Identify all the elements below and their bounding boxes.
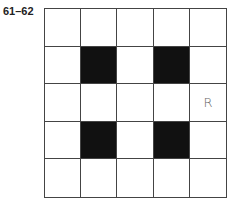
grid-cell-marked: R	[190, 84, 226, 122]
grid-cell	[117, 47, 153, 85]
grid-cell	[81, 9, 117, 47]
grid-cell	[45, 159, 81, 197]
grid-cell	[117, 159, 153, 197]
grid-cell	[117, 84, 153, 122]
grid-cell	[45, 47, 81, 85]
grid-5x5: R	[44, 8, 227, 198]
grid-cell	[190, 47, 226, 85]
grid-cell	[154, 159, 190, 197]
grid-cell	[190, 159, 226, 197]
grid-cell	[154, 9, 190, 47]
grid-cell	[154, 84, 190, 122]
grid-cell	[117, 9, 153, 47]
grid-cell	[45, 84, 81, 122]
grid-cell-filled	[154, 122, 190, 160]
grid-cell-filled	[154, 47, 190, 85]
problem-number-label: 61–62	[3, 5, 34, 17]
grid-cell	[117, 122, 153, 160]
grid-cell-filled	[81, 122, 117, 160]
grid-cell	[81, 84, 117, 122]
grid-cell	[190, 9, 226, 47]
grid-cell	[45, 9, 81, 47]
grid-cell	[190, 122, 226, 160]
grid-cell-filled	[81, 47, 117, 85]
grid-cell	[45, 122, 81, 160]
grid-cell	[81, 159, 117, 197]
